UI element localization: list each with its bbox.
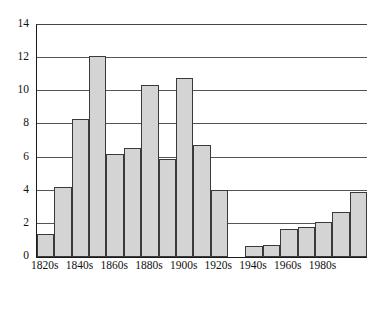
y-tick-label-10: 10: [18, 85, 30, 97]
x-tick-label-1940s: 1940s: [239, 260, 266, 272]
bar-1950s: [263, 245, 280, 257]
x-axis-tick-labels: 1820s1840s1860s1880s1900s1920s1940s1960s…: [36, 258, 366, 280]
bar-1980s: [315, 222, 332, 257]
y-tick-label-6: 6: [23, 151, 29, 163]
bar-1890s: [159, 159, 176, 257]
x-tick-label-1820s: 1820s: [31, 260, 58, 272]
bar-1900s: [176, 78, 193, 257]
x-tick-label-1920s: 1920s: [205, 260, 232, 272]
y-tick-label-2: 2: [23, 217, 29, 229]
x-tick-label-1840s: 1840s: [66, 260, 93, 272]
y-tick-label-8: 8: [23, 118, 29, 130]
x-tick-label-1880s: 1880s: [135, 260, 162, 272]
x-tick-label-1860s: 1860s: [100, 260, 127, 272]
bar-1880s: [141, 85, 158, 257]
y-tick-label-12: 12: [18, 51, 30, 63]
bar-1940s: [245, 246, 262, 257]
bar-1920s: [211, 190, 228, 257]
y-tick-label-4: 4: [23, 184, 29, 196]
bar-1960s: [280, 229, 297, 257]
y-tick-label-14: 14: [18, 18, 30, 30]
bar-1870s: [124, 148, 141, 257]
plot-area: [36, 24, 367, 258]
bar-1990s: [332, 212, 349, 257]
x-tick-label-1960s: 1960s: [274, 260, 301, 272]
bar-1910s: [193, 145, 210, 257]
x-tick-label-1980s: 1980s: [309, 260, 336, 272]
bar-1840s: [72, 119, 89, 257]
y-axis-tick-labels: 02468101214: [0, 24, 32, 256]
bar-chart: 02468101214 1820s1840s1860s1880s1900s192…: [0, 0, 376, 309]
bar-1860s: [106, 154, 123, 257]
y-tick-label-0: 0: [23, 250, 29, 262]
bar-2000s: [350, 192, 367, 257]
bar-series: [37, 25, 367, 257]
x-tick-label-1900s: 1900s: [170, 260, 197, 272]
bar-1970s: [298, 227, 315, 257]
bar-1830s: [54, 187, 71, 257]
bar-1820s: [37, 234, 54, 257]
bar-1850s: [89, 56, 106, 257]
